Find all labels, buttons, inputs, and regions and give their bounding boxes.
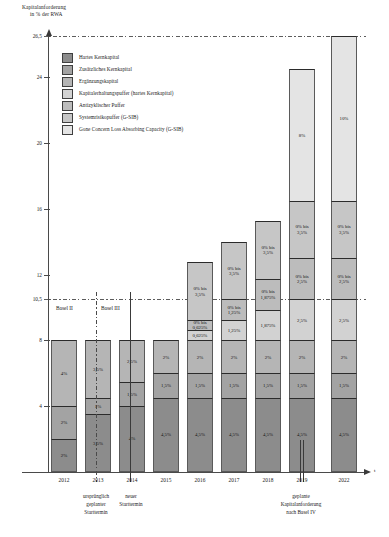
bar-segment-label: 0% bis 3,5% [295, 224, 308, 235]
bar-segment-label: 0% bis 3,5% [261, 245, 274, 256]
bar-segment-ergaenzungskapital[interactable]: 2% [153, 340, 179, 373]
bar-segment-zusaetzliches-kernkapital[interactable]: 1,5% [221, 373, 247, 398]
bar-segment-zusaetzliches-kernkapital[interactable]: 1,5% [255, 373, 281, 398]
label-basel-ii: Basel II [56, 305, 73, 311]
bar-segment-label: 3,5% [93, 367, 103, 372]
bar-segment-label: 3,5% [93, 441, 103, 446]
bar-2017[interactable]: 0% bis 3,5%0% bis 1,25%1,25%2%1,5%4,5% [221, 242, 247, 472]
bar-segment-label: 0% bis 2,5% [295, 274, 308, 285]
y-tick-label: 26,5 [12, 33, 42, 39]
bar-segment-label: 2% [265, 355, 271, 360]
bar-segment-ergaenzungskapital[interactable]: 2,5% [119, 340, 145, 381]
bar-segment-antizyklischer-puffer[interactable]: 0% bis 1,25% [221, 299, 247, 320]
bar-segment-label: 2% [341, 355, 347, 360]
bar-segment-ergaenzungskapital[interactable]: 4% [51, 340, 77, 406]
bar-segment-ergaenzungskapital[interactable]: 2% [331, 340, 357, 373]
bar-segment-label: 1,25% [228, 328, 240, 333]
bar-segment-label: 2% [61, 453, 67, 458]
bar-2014[interactable]: 2,5%1,5%4% [119, 340, 145, 472]
bar-2013[interactable]: 3,5%1%3,5% [85, 340, 111, 472]
bar-segment-zusaetzliches-kernkapital[interactable]: 1,5% [289, 373, 315, 398]
bar-segment-zusaetzliches-kernkapital[interactable]: 1,5% [331, 373, 357, 398]
bar-segment-label: 0% bis 1,25% [227, 305, 240, 316]
bar-segment-label: 2% [197, 355, 203, 360]
bar-segment-hartes-kernkapital[interactable]: 4,5% [153, 398, 179, 472]
bar-segment-systemrisikopuffer[interactable]: 0% bis 3,5% [289, 201, 315, 259]
y-tick-label: 16 [12, 206, 42, 212]
y-axis-title: Kapitalanforderung in % der RWA [22, 4, 66, 18]
bar-segment-kapitalerhaltungspuffer[interactable]: 1,25% [221, 320, 247, 341]
bar-segment-hartes-kernkapital[interactable]: 4,5% [255, 398, 281, 472]
bar-segment-zusaetzliches-kernkapital[interactable]: 1,5% [119, 382, 145, 407]
bar-segment-hartes-kernkapital[interactable]: 4,5% [187, 398, 213, 472]
bar-segment-ergaenzungskapital[interactable]: 2% [187, 340, 213, 373]
bar-segment-systemrisikopuffer[interactable]: 0% bis 3,5% [255, 221, 281, 279]
bar-segment-label: 10% [340, 116, 349, 121]
bar-segment-zusaetzliches-kernkapital[interactable]: 2% [51, 406, 77, 439]
bar-segment-label: 4,5% [297, 432, 307, 437]
bar-segment-gclac[interactable]: 10% [331, 36, 357, 201]
bar-segment-antizyklischer-puffer[interactable]: 0% bis 1,875% [255, 279, 281, 310]
bar-2015[interactable]: 2%1,5%4,5% [153, 340, 179, 472]
bar-segment-label: 2,5% [297, 318, 307, 323]
y-tick-label: 8 [12, 337, 42, 343]
bar-segment-label: 2,5% [127, 359, 137, 364]
bar-2018[interactable]: 0% bis 3,5%0% bis 1,875%1,875%2%1,5%4,5% [255, 221, 281, 472]
bar-segment-label: 2% [299, 355, 305, 360]
bar-segment-kapitalerhaltungspuffer[interactable]: 2,5% [289, 299, 315, 340]
bar-2022[interactable]: 10%0% bis 3,5%0% bis 2,5%2,5%2%1,5%4,5% [331, 36, 357, 472]
bar-segment-hartes-kernkapital[interactable]: 4% [119, 406, 145, 472]
x-axis-end-label: t [374, 468, 375, 473]
bar-segment-zusaetzliches-kernkapital[interactable]: 1,5% [153, 373, 179, 398]
bar-segment-label: 2,5% [339, 318, 349, 323]
bar-segment-antizyklischer-puffer[interactable]: 0% bis 2,5% [331, 258, 357, 299]
bar-segment-hartes-kernkapital[interactable]: 2% [51, 439, 77, 472]
bar-segment-zusaetzliches-kernkapital[interactable]: 1,5% [187, 373, 213, 398]
bar-segment-label: 4,5% [161, 432, 171, 437]
bar-segment-label: 1,5% [195, 383, 205, 388]
bar-segment-label: 1,5% [127, 392, 137, 397]
bar-segment-label: 2% [163, 355, 169, 360]
x-axis-line [22, 472, 366, 473]
bar-segment-label: 1,5% [339, 383, 349, 388]
bar-segment-label: 1,5% [161, 383, 171, 388]
y-tick-label: 24 [12, 74, 42, 80]
bar-segment-ergaenzungskapital[interactable]: 2% [289, 340, 315, 373]
bar-segment-gclac[interactable]: 8% [289, 69, 315, 201]
bar-2019[interactable]: 8%0% bis 3,5%0% bis 2,5%2,5%2%1,5%4,5% [289, 69, 315, 472]
bar-segment-label: 2% [61, 420, 67, 425]
bar-segment-label: 0% bis 3,5% [227, 266, 240, 277]
bar-segment-hartes-kernkapital[interactable]: 4,5% [289, 398, 315, 472]
bar-segment-antizyklischer-puffer[interactable]: 0% bis 2,5% [289, 258, 315, 299]
y-tick-label: 12 [12, 272, 42, 278]
y-axis-title-line2: in % der RWA [22, 11, 66, 18]
bar-segment-zusaetzliches-kernkapital[interactable]: 1% [85, 398, 111, 414]
bar-segment-label: 4,5% [195, 432, 205, 437]
separator-basel-iv-2 [303, 440, 304, 482]
y-axis-title-line1: Kapitalanforderung [22, 4, 66, 10]
bar-segment-label: 0% bis 0,625% [193, 320, 208, 330]
separator-basel-iv [300, 440, 301, 482]
bar-segment-kapitalerhaltungspuffer[interactable]: 1,875% [255, 310, 281, 341]
label-basel-iii: Basel III [101, 305, 120, 311]
bar-2012[interactable]: 4%2%2% [51, 340, 77, 472]
bar-segment-hartes-kernkapital[interactable]: 4,5% [331, 398, 357, 472]
bar-segment-label: 4% [61, 371, 67, 376]
bar-segment-kapitalerhaltungspuffer[interactable]: 0,625% [187, 330, 213, 340]
x-axis-annotation-1: neuer Starttermin [71, 492, 191, 508]
bar-segment-antizyklischer-puffer[interactable]: 0% bis 0,625% [187, 320, 213, 330]
bar-segment-ergaenzungskapital[interactable]: 2% [255, 340, 281, 373]
bar-segment-ergaenzungskapital[interactable]: 2% [221, 340, 247, 373]
bar-segment-label: 1,5% [263, 383, 273, 388]
bar-segment-systemrisikopuffer[interactable]: 0% bis 3,5% [221, 242, 247, 300]
bar-segment-hartes-kernkapital[interactable]: 4,5% [221, 398, 247, 472]
bar-2016[interactable]: 0% bis 3,5%0% bis 0,625%0,625%2%1,5%4,5% [187, 262, 213, 472]
bar-segment-label: 2% [231, 355, 237, 360]
bar-segment-systemrisikopuffer[interactable]: 0% bis 3,5% [331, 201, 357, 259]
bar-segment-kapitalerhaltungspuffer[interactable]: 2,5% [331, 299, 357, 340]
bar-segment-label: 0% bis 1,875% [261, 289, 276, 300]
bar-segment-systemrisikopuffer[interactable]: 0% bis 3,5% [187, 262, 213, 320]
bar-segment-label: 4,5% [229, 432, 239, 437]
bar-segment-hartes-kernkapital[interactable]: 3,5% [85, 414, 111, 472]
bar-segment-ergaenzungskapital[interactable]: 3,5% [85, 340, 111, 398]
